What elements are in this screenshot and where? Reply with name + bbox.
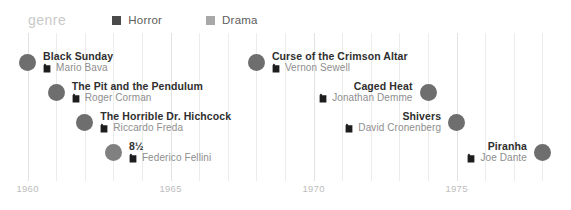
- film-clapper-icon: [272, 63, 280, 73]
- event-dot[interactable]: [76, 114, 93, 131]
- axis-tick-label: 1975: [445, 183, 467, 194]
- event-labels: The Pit and the PendulumRoger Corman: [72, 80, 203, 104]
- timeline-event[interactable]: Caged HeatJonathan Demme: [319, 77, 436, 107]
- timeline-event[interactable]: PiranhaJoe Dante: [467, 137, 551, 167]
- event-director: Vernon Sewell: [285, 62, 350, 74]
- x-axis: 1960196519701975: [0, 181, 571, 201]
- event-title: Piranha: [488, 140, 527, 152]
- square-swatch-icon: [112, 16, 121, 25]
- legend: genre Horror Drama: [28, 10, 302, 30]
- event-director: Jonathan Demme: [332, 92, 412, 104]
- event-director: Roger Corman: [85, 92, 152, 104]
- event-dot[interactable]: [448, 114, 465, 131]
- film-clapper-icon: [100, 123, 108, 133]
- timeline-chart: genre Horror Drama Black SundayMario Bav…: [0, 0, 571, 210]
- event-title: Caged Heat: [354, 80, 413, 92]
- event-subtitle: Federico Fellini: [129, 152, 211, 164]
- event-director: Federico Fellini: [142, 152, 211, 164]
- axis-tick-label: 1965: [159, 183, 181, 194]
- event-title: 8½: [129, 140, 211, 152]
- event-dot[interactable]: [19, 54, 36, 71]
- film-clapper-icon: [345, 123, 353, 133]
- legend-title: genre: [28, 12, 66, 28]
- event-labels: The Horrible Dr. HichcockRiccardo Freda: [100, 110, 231, 134]
- event-subtitle: Mario Bava: [43, 62, 113, 74]
- axis-tick-label: 1970: [302, 183, 324, 194]
- event-dot[interactable]: [420, 84, 437, 101]
- timeline-event[interactable]: 8½Federico Fellini: [105, 137, 211, 167]
- event-director: Mario Bava: [56, 62, 108, 74]
- legend-label-horror: Horror: [128, 14, 162, 26]
- event-dot[interactable]: [534, 144, 551, 161]
- event-title: Shivers: [402, 110, 441, 122]
- film-clapper-icon: [43, 63, 51, 73]
- event-title: Black Sunday: [43, 50, 113, 62]
- event-dot[interactable]: [105, 144, 122, 161]
- event-director: Joe Dante: [480, 152, 527, 164]
- event-title: The Pit and the Pendulum: [72, 80, 203, 92]
- event-subtitle: Riccardo Freda: [100, 122, 231, 134]
- event-labels: 8½Federico Fellini: [129, 140, 211, 164]
- event-director: David Cronenberg: [358, 122, 441, 134]
- film-clapper-icon: [72, 93, 80, 103]
- event-title: Curse of the Crimson Altar: [272, 50, 408, 62]
- square-swatch-icon: [206, 16, 215, 25]
- event-subtitle: Roger Corman: [72, 92, 203, 104]
- timeline-event[interactable]: ShiversDavid Cronenberg: [345, 107, 465, 137]
- event-labels: Caged HeatJonathan Demme: [319, 80, 412, 104]
- event-title: The Horrible Dr. Hichcock: [100, 110, 231, 122]
- legend-item-drama[interactable]: Drama: [206, 14, 258, 26]
- event-dot[interactable]: [48, 84, 65, 101]
- event-director: Riccardo Freda: [113, 122, 183, 134]
- legend-label-drama: Drama: [222, 14, 258, 26]
- event-subtitle: Jonathan Demme: [319, 92, 412, 104]
- event-dot[interactable]: [248, 54, 265, 71]
- event-list: Black SundayMario BavaThe Pit and the Pe…: [0, 33, 571, 181]
- event-subtitle: David Cronenberg: [345, 122, 441, 134]
- film-clapper-icon: [467, 153, 475, 163]
- axis-tick-label: 1960: [16, 183, 38, 194]
- film-clapper-icon: [129, 153, 137, 163]
- timeline-event[interactable]: Black SundayMario Bava: [19, 47, 113, 77]
- event-subtitle: Vernon Sewell: [272, 62, 408, 74]
- timeline-event[interactable]: The Horrible Dr. HichcockRiccardo Freda: [76, 107, 231, 137]
- event-labels: Curse of the Crimson AltarVernon Sewell: [272, 50, 408, 74]
- event-labels: Black SundayMario Bava: [43, 50, 113, 74]
- event-labels: PiranhaJoe Dante: [467, 140, 527, 164]
- timeline-event[interactable]: The Pit and the PendulumRoger Corman: [48, 77, 203, 107]
- event-subtitle: Joe Dante: [467, 152, 527, 164]
- event-labels: ShiversDavid Cronenberg: [345, 110, 441, 134]
- film-clapper-icon: [319, 93, 327, 103]
- legend-item-horror[interactable]: Horror: [112, 14, 162, 26]
- timeline-event[interactable]: Curse of the Crimson AltarVernon Sewell: [248, 47, 408, 77]
